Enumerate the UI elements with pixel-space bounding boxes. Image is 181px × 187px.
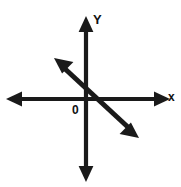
y-axis-label: Y: [93, 13, 102, 26]
axes-diagram-svg: [0, 0, 181, 187]
coordinate-axes-figure: Y x 0: [0, 0, 181, 187]
x-axis-label: x: [168, 91, 175, 103]
origin-label: 0: [72, 104, 79, 116]
